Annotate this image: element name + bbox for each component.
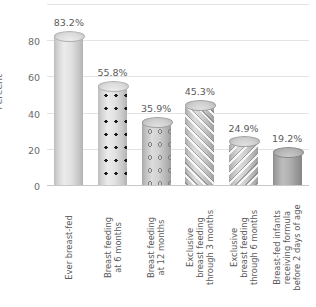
bar-pattern [142, 121, 171, 186]
x-axis-label: Breast feeding at 6 months [98, 190, 127, 305]
gridline [47, 149, 309, 150]
bar-value-label: 83.2% [54, 17, 84, 28]
y-axis-tick-label: 60 [14, 72, 40, 83]
bar-top-ellipse [98, 81, 129, 92]
bar-chart: Percent 020406080 83.2%55.8%35.9%45.3%24… [0, 0, 316, 307]
y-axis-tick-label: 0 [14, 181, 40, 192]
y-axis-title: Percent [0, 74, 4, 110]
x-axis-label-text: Breast feeding at 6 months [102, 190, 122, 305]
bar-pattern [185, 104, 214, 186]
bar-body [185, 104, 214, 186]
x-axis-label: Exclusive breast feeding through 3 month… [185, 190, 214, 305]
plot-area: 83.2%55.8%35.9%45.3%24.9%19.2% [47, 5, 309, 186]
x-axis-label: Breast-fed infants receiving formula bef… [273, 190, 302, 305]
bar-body [229, 141, 258, 186]
bar-body [54, 35, 83, 186]
bar-top-ellipse [185, 100, 216, 111]
bar-value-label: 35.9% [141, 103, 171, 114]
bar: 83.2% [54, 35, 83, 186]
bar-value-label: 24.9% [228, 123, 258, 134]
x-axis-label-text: Exclusive breast feeding through 3 month… [185, 190, 216, 305]
bar-top-ellipse [273, 147, 304, 158]
bar-body [142, 121, 171, 186]
bar-value-label: 55.8% [97, 67, 127, 78]
x-axis-label: Ever breast-fed [54, 190, 83, 305]
bar: 45.3% [185, 104, 214, 186]
x-axis-label: Exclusive breast feeding through 6 month… [229, 190, 258, 305]
y-axis-tick-label: 20 [14, 144, 40, 155]
x-axis-label-text: Breast-fed infants receiving formula bef… [272, 190, 303, 305]
gridline [47, 76, 309, 77]
bar-body [98, 85, 127, 186]
x-axis-label-text: Exclusive breast feeding through 6 month… [228, 190, 259, 305]
bar-top-ellipse [142, 117, 173, 128]
bar-pattern [98, 85, 127, 186]
y-axis-tick-label: 80 [14, 36, 40, 47]
gridline [47, 113, 309, 114]
gridline [47, 40, 309, 41]
y-axis-tick-label: 40 [14, 108, 40, 119]
bar: 24.9% [229, 141, 258, 186]
bar-value-label: 45.3% [185, 86, 215, 97]
bar-value-label: 19.2% [272, 133, 302, 144]
bar-top-ellipse [54, 31, 85, 42]
x-axis-label-text: Ever breast-fed [64, 190, 74, 305]
gridline [47, 4, 309, 5]
bar-pattern [229, 141, 258, 186]
x-axis-category-labels: Ever breast-fedBreast feeding at 6 month… [47, 190, 309, 307]
x-axis-label: Breast feeding at 12 months [142, 190, 171, 305]
bar: 55.8% [98, 85, 127, 186]
x-axis-line [47, 185, 309, 186]
x-axis-label-text: Breast feeding at 12 months [146, 190, 166, 305]
bar: 19.2% [273, 151, 302, 186]
bar: 35.9% [142, 121, 171, 186]
